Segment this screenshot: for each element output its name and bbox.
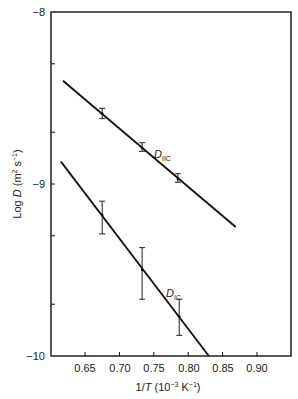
y-tick-label: −10	[26, 350, 45, 362]
data-point	[101, 214, 104, 217]
x-tick-label: 0.90	[246, 362, 267, 374]
arrhenius-chart: −8 −9 −10 0.65 0.70 0.75 0.80 0.85 0.90 …	[0, 0, 298, 399]
x-axis-label: 1/T (10−3 K−1)	[136, 381, 201, 393]
series-label-dIC: DIC	[166, 287, 181, 301]
data-series	[61, 81, 236, 356]
y-tick-label: −8	[32, 6, 45, 18]
x-tick-label: 0.75	[143, 362, 164, 374]
y-axis-label: Log D (m2 s−1)	[11, 149, 23, 218]
x-tick-label: 0.80	[178, 362, 199, 374]
data-point	[141, 269, 144, 272]
x-tick-label: 0.70	[109, 362, 130, 374]
x-tick-label: 0.85	[212, 362, 233, 374]
data-point	[177, 178, 180, 181]
series-D_IC	[61, 162, 209, 356]
y-tick-label: −9	[32, 178, 45, 190]
plot-frame	[51, 12, 291, 356]
series-label-dIIC: DIIC	[154, 148, 171, 162]
data-point	[178, 315, 181, 318]
series-D_IIC	[63, 81, 236, 227]
fit-line	[63, 81, 236, 227]
fit-line	[61, 162, 209, 356]
x-tick-label: 0.65	[74, 362, 95, 374]
data-point	[101, 112, 104, 115]
data-point	[141, 147, 144, 150]
